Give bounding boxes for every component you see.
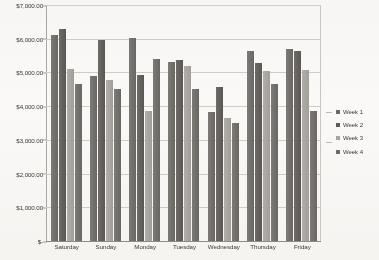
bar[interactable] [98,40,105,241]
legend-label: Week 1 [343,109,363,115]
bar[interactable] [224,118,231,241]
x-axis-labels: SaturdaySundayMondayTuesdayWednesdayThur… [47,243,322,250]
legend-swatch-icon [336,123,340,127]
legend-swatch-icon [336,110,340,114]
bar[interactable] [90,76,97,241]
x-axis-tick-label: Friday [283,243,322,250]
legend-swatch-icon [336,150,340,154]
bar[interactable] [59,29,66,241]
legend-label: Week 4 [343,149,363,155]
y-axis-tick-label: $6,000.00 [16,35,43,42]
bar[interactable] [302,70,309,241]
x-axis-tick-label: Tuesday [165,243,204,250]
bar[interactable] [145,111,152,241]
bar[interactable] [271,84,278,241]
legend-item[interactable]: Week 1 [336,109,363,115]
bar-group [204,5,243,241]
bar-group [47,5,86,241]
x-axis-tick-label: Thursday [243,243,282,250]
legend-swatch-icon [336,136,340,140]
bar[interactable] [255,63,262,241]
chart-legend: Week 1Week 2Week 3Week 4 [336,109,363,155]
bar[interactable] [208,112,215,241]
bar[interactable] [129,38,136,241]
legend-item[interactable]: Week 2 [336,122,363,128]
legend-item[interactable]: Week 4 [336,149,363,155]
bar[interactable] [176,60,183,241]
bar[interactable] [286,49,293,241]
bar-chart: $-$1,000.00$2,000.00$3,000.00$4,000.00$5… [0,0,379,260]
x-axis-tick-label: Monday [126,243,165,250]
bar-group [164,5,203,241]
bar-group [243,5,282,241]
bar[interactable] [232,123,239,241]
y-axis: $-$1,000.00$2,000.00$3,000.00$4,000.00$5… [0,0,46,260]
bar-group [125,5,164,241]
bar[interactable] [247,51,254,241]
bar[interactable] [114,89,121,241]
axis-baseline [46,241,321,242]
x-axis-tick-label: Wednesday [204,243,243,250]
x-axis-tick-label: Sunday [86,243,125,250]
y-axis-tick-label: $1,000.00 [16,204,43,211]
bar[interactable] [67,69,74,241]
legend-tick-stub [326,142,332,143]
y-axis-tick-label: $2,000.00 [16,170,43,177]
legend-label: Week 2 [343,122,363,128]
y-axis-tick-label: $3,000.00 [16,136,43,143]
bar[interactable] [106,80,113,241]
bar[interactable] [294,51,301,241]
bar-group [282,5,321,241]
bar[interactable] [216,87,223,241]
y-axis-tick-label: $7,000.00 [16,2,43,9]
y-axis-tick-label: $4,000.00 [16,103,43,110]
bar[interactable] [153,59,160,241]
y-axis-tick-label: $- [38,238,43,245]
y-axis-tick-label: $5,000.00 [16,69,43,76]
bar[interactable] [310,111,317,241]
legend-tick-stub [326,112,332,113]
bar[interactable] [51,35,58,241]
bar[interactable] [192,89,199,241]
plot-area [46,5,321,241]
legend-item[interactable]: Week 3 [336,135,363,141]
bar-group [86,5,125,241]
bar[interactable] [137,75,144,241]
bar[interactable] [263,71,270,241]
legend-label: Week 3 [343,135,363,141]
x-axis-tick-label: Saturday [47,243,86,250]
bar-groups [47,5,321,241]
bar[interactable] [168,62,175,241]
bar[interactable] [184,66,191,241]
bar[interactable] [75,84,82,241]
